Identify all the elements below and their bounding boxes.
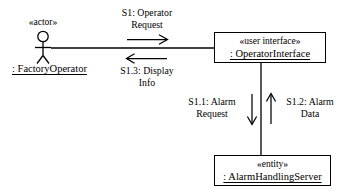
message-label-s1-1: S1.1: Alarm Request bbox=[178, 96, 246, 120]
message-arrow-s1-2 bbox=[266, 94, 275, 125]
message-label-s1: S1: Operator Request bbox=[107, 7, 187, 31]
message-label-s1-2: S1.2: Alarm Data bbox=[279, 96, 341, 120]
message-label-s1-3: S1.3: Display Info bbox=[107, 65, 187, 89]
actor-icon bbox=[35, 31, 51, 63]
alarm-handling-server-stereotype: «entity» bbox=[257, 158, 288, 170]
operator-interface-stereotype: «user interface» bbox=[240, 35, 301, 47]
operator-interface-name: : OperatorInterface bbox=[230, 47, 310, 60]
message-arrow-s1-3 bbox=[127, 54, 168, 63]
uml-communication-diagram: «actor» : FactoryOperator «user interfac… bbox=[0, 0, 344, 193]
message-arrow-s1 bbox=[127, 35, 168, 44]
node-operator-interface[interactable]: «user interface» : OperatorInterface bbox=[214, 32, 326, 63]
actor-name-label: : FactoryOperator bbox=[12, 62, 87, 75]
alarm-handling-server-name: : AlarmHandlingServer bbox=[223, 170, 321, 183]
message-arrow-s1-1 bbox=[247, 94, 256, 125]
actor-stereotype: «actor» bbox=[19, 16, 67, 28]
node-alarm-handling-server[interactable]: «entity» : AlarmHandlingServer bbox=[214, 155, 331, 186]
